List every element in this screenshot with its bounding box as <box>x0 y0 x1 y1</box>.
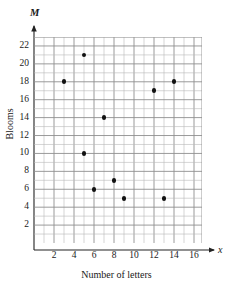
x-tick-label: 8 <box>105 251 123 261</box>
y-tick-label: 14 <box>11 113 29 123</box>
data-point <box>162 196 167 201</box>
data-point <box>92 187 97 192</box>
x-axis-title: Number of letters <box>0 270 233 280</box>
y-tick-label: 16 <box>11 95 29 105</box>
plot-area <box>34 37 202 243</box>
y-tick-label: 18 <box>11 77 29 87</box>
x-tick-label: 14 <box>165 251 183 261</box>
x-tick-label: 4 <box>65 251 83 261</box>
data-point <box>82 151 87 156</box>
x-tick-label: 12 <box>145 251 163 261</box>
y-tick-label: 6 <box>11 184 29 194</box>
y-tick-label: 8 <box>11 166 29 176</box>
data-point <box>102 115 107 120</box>
x-tick-label: 10 <box>125 251 143 261</box>
grid <box>34 37 202 243</box>
x-axis-variable-label: x <box>218 245 222 255</box>
y-axis-variable-label: M <box>30 8 39 19</box>
y-tick-label: 20 <box>11 59 29 69</box>
y-tick-label: 2 <box>11 220 29 230</box>
data-point <box>112 178 117 183</box>
scatter-plot-figure: M x Blooms Number of letters 24681012141… <box>0 0 233 291</box>
y-tick-label: 22 <box>11 41 29 51</box>
x-tick-label: 2 <box>45 251 63 261</box>
data-point <box>122 196 127 201</box>
x-tick-label: 6 <box>85 251 103 261</box>
y-tick-label: 12 <box>11 131 29 141</box>
y-tick-label: 4 <box>11 202 29 212</box>
y-tick-label: 10 <box>11 148 29 158</box>
x-tick-label: 16 <box>185 251 203 261</box>
